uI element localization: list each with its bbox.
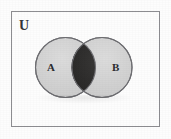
venn-diagram-figure: U [0,0,171,139]
venn-circles-graphic [0,0,171,139]
set-a-label: A [47,62,55,73]
set-b-label: B [112,62,119,73]
